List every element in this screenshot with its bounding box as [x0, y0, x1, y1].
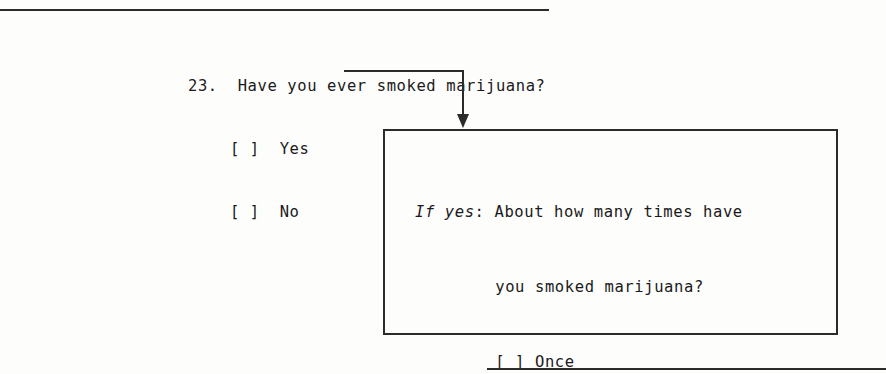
- followup-condition-label: If yes: [415, 203, 475, 221]
- question-text: 23. Have you ever smoked marijuana?: [188, 76, 546, 97]
- down-arrow-icon: [457, 114, 469, 128]
- connector-line-vertical: [462, 70, 464, 118]
- followup-question-box: If yes: About how many times have you sm…: [383, 129, 838, 335]
- connector-line-horizontal: [344, 70, 464, 72]
- followup-condition-separator: :: [475, 203, 485, 221]
- top-horizontal-rule: [0, 9, 549, 11]
- bottom-horizontal-rule: [487, 368, 886, 370]
- followup-prompt-line-2: you smoked marijuana?: [415, 275, 743, 300]
- followup-prompt-line-1: About how many times have: [494, 203, 742, 221]
- followup-option-once[interactable]: [ ] Once: [415, 350, 743, 374]
- followup-header-line: If yes: About how many times have: [415, 200, 743, 225]
- followup-content: If yes: About how many times have you sm…: [415, 150, 743, 374]
- document-page: 23. Have you ever smoked marijuana? [ ] …: [0, 0, 886, 374]
